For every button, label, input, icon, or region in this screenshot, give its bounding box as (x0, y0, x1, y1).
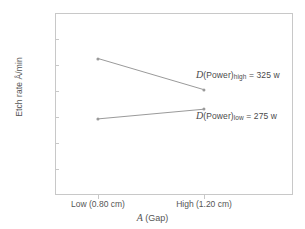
x-tick-label-high: High (1.20 cm) (149, 199, 259, 209)
annotation-power-high-base: (Power) (203, 70, 233, 80)
x-tick-label-low: Low (0.80 cm) (43, 199, 153, 209)
x-axis-title-rest: (Gap) (143, 213, 169, 223)
annotation-power-low: D(Power)low = 275 w (196, 110, 277, 121)
annotation-power-high: D(Power)high = 325 w (196, 69, 280, 80)
annotation-power-low-base: (Power) (203, 111, 233, 121)
y-tick-mark-1000 (55, 65, 59, 66)
y-tick-mark-1200 (55, 39, 59, 40)
x-axis-title: A (Gap) (0, 212, 305, 223)
y-tick-mark-1400 (55, 13, 59, 14)
annotation-power-low-subscript: low (234, 114, 244, 121)
y-tick-mark-800 (55, 91, 59, 92)
annotation-power-high-value: = 325 w (247, 70, 280, 80)
interaction-plot-figure: Etch rate Å/min 0 200 400 600 800 1000 1… (0, 0, 305, 229)
y-tick-mark-200 (55, 169, 59, 170)
y-axis-title: Etch rate Å/min (14, 27, 24, 147)
plot-area (55, 13, 293, 195)
y-tick-mark-600 (55, 117, 59, 118)
annotation-power-low-value: = 275 w (244, 111, 277, 121)
y-tick-mark-400 (55, 143, 59, 144)
annotation-power-high-subscript: high (234, 73, 247, 80)
